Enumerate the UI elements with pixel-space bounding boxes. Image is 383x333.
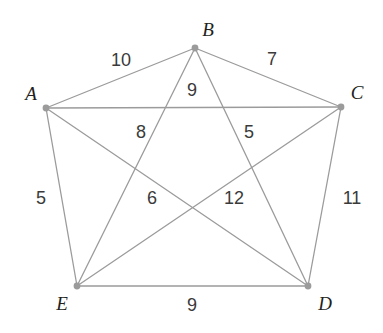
graph-edge-ce: [77, 107, 341, 286]
edge-weight-be: 8: [136, 123, 146, 141]
graph-canvas: [0, 0, 383, 333]
edge-weight-bc: 7: [267, 50, 277, 68]
graph-edge-ac: [46, 107, 341, 108]
graph-edge-ea: [46, 108, 77, 286]
graph-edge-ad: [46, 108, 308, 286]
edge-weight-ea: 5: [36, 189, 46, 207]
edge-weight-ab: 10: [111, 51, 131, 69]
graph-vertex-a: [43, 105, 50, 112]
vertex-label-d: D: [318, 294, 332, 313]
vertex-label-e: E: [56, 294, 68, 313]
graph-edge-cd: [308, 107, 341, 286]
edge-weight-de: 9: [187, 296, 197, 314]
edge-weight-ce: 12: [224, 189, 244, 207]
graph-edge-be: [77, 48, 195, 286]
edge-weight-ad: 6: [147, 189, 157, 207]
graph-figure: ABCDE 1071195859612: [0, 0, 383, 333]
vertex-label-c: C: [351, 83, 364, 102]
vertex-label-b: B: [202, 20, 214, 39]
graph-vertex-b: [192, 45, 199, 52]
vertex-label-a: A: [25, 84, 37, 103]
edge-weight-ac: 9: [187, 81, 197, 99]
edge-weight-cd: 11: [343, 189, 362, 207]
graph-vertex-d: [305, 283, 312, 290]
graph-vertex-c: [338, 104, 345, 111]
edge-weight-bd: 5: [244, 123, 254, 141]
graph-vertex-e: [74, 283, 81, 290]
